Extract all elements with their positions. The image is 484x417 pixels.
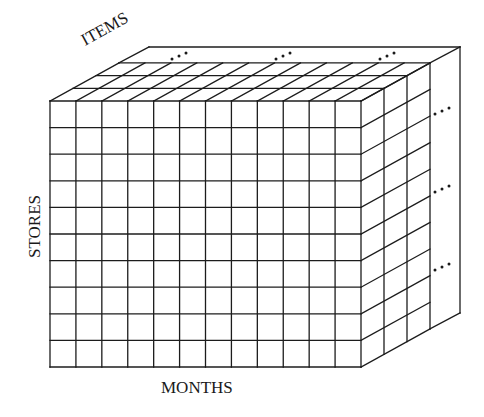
ellipsis-top-icon [289,52,292,55]
ellipsis-right-icon [448,263,451,266]
ellipsis-right-icon [441,110,444,113]
top-depth-line [335,63,404,101]
ellipsis-right-icon [441,266,444,269]
top-depth-line [50,63,119,101]
ellipsis-top-icon [185,52,188,55]
stores-axis-label: STORES [25,195,44,258]
top-depth-line [180,63,249,101]
ellipsis-right-icon [434,191,437,194]
top-depth-line [128,63,197,101]
ellipsis-right-icon [434,113,437,116]
ellipsis-top-icon [171,58,174,61]
outer-top-left-edge [119,47,149,63]
items-axis-label: ITEMS [78,8,132,49]
ellipsis-top-icon [386,55,389,58]
ellipsis-right-icon [434,269,437,272]
outer-bottom-right-edge [430,313,460,329]
top-depth-line [154,63,223,101]
data-cube-diagram: MONTHS STORES ITEMS [0,0,484,417]
top-depth-line [309,63,378,101]
ellipsis-right-icon [448,185,451,188]
ellipsis-top-icon [282,55,285,58]
ellipsis-top-icon [275,58,278,61]
top-depth-line [231,63,300,101]
top-depth-line [102,63,171,101]
outer-top-right-edge [430,47,460,63]
continuation-ellipses [171,52,451,272]
cube-grid-lines [50,47,460,367]
ellipsis-top-icon [393,52,396,55]
ellipsis-top-icon [379,58,382,61]
ellipsis-top-icon [178,55,181,58]
top-depth-line [76,63,145,101]
top-depth-line [283,63,352,101]
top-depth-line [257,63,326,101]
top-depth-line [206,63,275,101]
ellipsis-right-icon [448,107,451,110]
months-axis-label: MONTHS [161,378,233,397]
ellipsis-right-icon [441,188,444,191]
